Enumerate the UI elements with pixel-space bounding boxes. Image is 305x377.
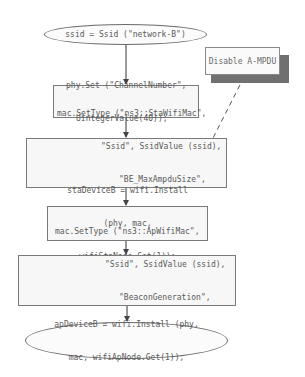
mac-ap-line-2: "Ssid", SsidValue (ssid), bbox=[55, 259, 225, 270]
mac-sta-line-1: mac.SetType ("ns3::StaWifiMac", bbox=[57, 108, 221, 119]
end-ellipse: apDeviceB = wifi.Install (phy, mac, wifi… bbox=[25, 322, 228, 359]
note-disable-ampdu: Disable A-MPDU bbox=[205, 47, 280, 75]
end-line-1: apDeviceB = wifi.Install (phy, bbox=[54, 319, 199, 330]
start-ellipse: ssid = Ssid ("network-B") bbox=[44, 24, 207, 45]
mac-ap-line-1: mac.SetType ("ns3::ApWifiMac", bbox=[55, 226, 225, 237]
start-text: ssid = Ssid ("network-B") bbox=[65, 29, 185, 40]
flowchart-canvas: ssid = Ssid ("network-B") phy.Set ("Chan… bbox=[0, 0, 305, 377]
mac-sta-line-2: "Ssid", SsidValue (ssid), bbox=[57, 141, 221, 152]
note-text: Disable A-MPDU bbox=[209, 56, 276, 67]
sta-install-line-1: staDeviceB = wifi.Install bbox=[67, 185, 187, 196]
end-line-2: mac, wifiApNode.Get(1)); bbox=[54, 352, 199, 363]
